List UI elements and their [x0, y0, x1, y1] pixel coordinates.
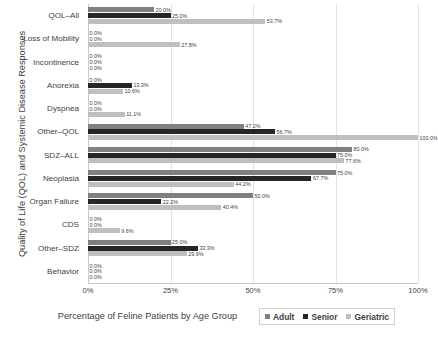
bar-line: 0.0% [88, 60, 418, 65]
bar-value-label: 0.0% [88, 222, 102, 228]
bar [88, 176, 311, 181]
y-axis-category-label: Dyspnea [0, 97, 84, 120]
legend-swatch-icon [303, 314, 308, 319]
legend-item[interactable]: Geriatric [346, 312, 388, 322]
y-axis-category-labels: QOL–AllLoss of MobilityIncontinenceAnore… [0, 4, 84, 283]
bar-line: 40.4% [88, 205, 418, 210]
bar-line: 75.0% [88, 153, 418, 158]
bar-line: 29.9% [88, 251, 418, 256]
bar-value-label: 0.0% [88, 274, 102, 280]
bar-value-label: 100.0% [418, 135, 438, 141]
bar-value-label: 27.8% [180, 42, 197, 48]
bar-value-label: 75.0% [336, 170, 353, 176]
x-axis-tick-label: 100% [408, 286, 427, 295]
bar-group: 0.0%0.0%9.6% [88, 213, 418, 236]
y-axis-category-label: Loss of Mobility [0, 27, 84, 50]
bar-group: 25.0%33.3%29.9% [88, 237, 418, 260]
bar-line: 0.0% [88, 100, 418, 105]
bar [88, 7, 154, 12]
bar-line: 27.8% [88, 42, 418, 47]
bar-line: 9.6% [88, 228, 418, 233]
x-axis-title: Percentage of Feline Patients by Age Gro… [40, 311, 255, 321]
bar-value-label: 0.0% [88, 106, 102, 112]
y-axis-category-label: CDS [0, 213, 84, 236]
bar-group: 20.0%25.0%53.7% [88, 4, 418, 27]
y-axis-category-label: QOL–All [0, 4, 84, 27]
bar-line: 0.0% [88, 65, 418, 70]
bar [88, 228, 120, 233]
bar-value-label: 0.0% [88, 77, 102, 83]
bar-value-label: 20.0% [154, 7, 171, 13]
bar-value-label: 53.7% [265, 18, 282, 24]
bar-line: 75.0% [88, 170, 418, 175]
bar-value-label: 67.7% [311, 175, 328, 181]
bar-group: 75.0%67.7%44.2% [88, 167, 418, 190]
bar-line: 53.7% [88, 19, 418, 24]
y-axis-category-label: SDZ–ALL [0, 144, 84, 167]
bar [88, 124, 244, 129]
legend-item[interactable]: Senior [303, 312, 337, 322]
bar-line: 10.6% [88, 89, 418, 94]
bar [88, 89, 123, 94]
bar [88, 182, 234, 187]
bar [88, 153, 336, 158]
y-axis-category-label: Behavior [0, 260, 84, 283]
y-axis-category-label: Other–SDZ [0, 237, 84, 260]
bar [88, 129, 275, 134]
bar-value-label: 29.9% [187, 251, 204, 257]
bar-value-label: 25.0% [171, 13, 188, 19]
bar-line: 0.0% [88, 269, 418, 274]
y-axis-category-label: Anorexia [0, 74, 84, 97]
legend-swatch-icon [265, 314, 270, 319]
plot-area: 20.0%25.0%53.7%0.0%0.0%27.8%0.0%0.0%0.0%… [88, 4, 418, 283]
legend-label: Adult [273, 312, 294, 322]
bar [88, 135, 418, 140]
bar [88, 199, 161, 204]
x-axis-tick-label: 75% [328, 286, 343, 295]
bar-value-label: 22.2% [161, 199, 178, 205]
x-axis-tick-label: 50% [245, 286, 260, 295]
bar-group: 0.0%0.0%11.1% [88, 97, 418, 120]
bar-line: 0.0% [88, 54, 418, 59]
legend-label: Senior [311, 312, 337, 322]
bar-value-label: 0.0% [88, 36, 102, 42]
bar-group: 47.2%56.7%100.0% [88, 120, 418, 143]
bar [88, 170, 336, 175]
bar-line: 77.6% [88, 158, 418, 163]
bar-group: 80.0%75.0%77.6% [88, 144, 418, 167]
bar-value-label: 10.6% [123, 88, 140, 94]
bar-group: 0.0%13.3%10.6% [88, 74, 418, 97]
bar-line: 11.1% [88, 112, 418, 117]
legend-item[interactable]: Adult [265, 312, 294, 322]
bar-line: 20.0% [88, 7, 418, 12]
y-axis-category-label: Organ Failure [0, 190, 84, 213]
bar-value-label: 77.6% [344, 158, 361, 164]
bar-value-label: 50.0% [253, 193, 270, 199]
legend-swatch-icon [346, 314, 351, 319]
bar-line: 67.7% [88, 176, 418, 181]
bar-value-label: 47.2% [244, 123, 261, 129]
bar-group: 0.0%0.0%27.8% [88, 27, 418, 50]
bar-line: 80.0% [88, 147, 418, 152]
y-axis-category-label: Incontinence [0, 51, 84, 74]
bar [88, 147, 352, 152]
bar [88, 246, 198, 251]
bar-value-label: 25.0% [171, 239, 188, 245]
bar-group: 0.0%0.0%0.0% [88, 51, 418, 74]
bar-line: 100.0% [88, 135, 418, 140]
x-axis-tick-label: 0% [83, 286, 94, 295]
y-axis-category-label: Neoplasia [0, 167, 84, 190]
bar-group: 50.0%22.2%40.4% [88, 190, 418, 213]
y-axis-category-label: Other–QOL [0, 120, 84, 143]
bar-line: 44.2% [88, 182, 418, 187]
bar-line: 47.2% [88, 124, 418, 129]
bar-line: 0.0% [88, 263, 418, 268]
bar-line: 0.0% [88, 36, 418, 41]
bar-value-label: 40.4% [221, 204, 238, 210]
bar-line: 0.0% [88, 275, 418, 280]
bar-value-label: 56.7% [275, 129, 292, 135]
bar-line: 25.0% [88, 13, 418, 18]
x-axis-tick-labels: 0%25%50%75%100% [88, 286, 418, 298]
bar-line: 25.0% [88, 240, 418, 245]
bar [88, 240, 171, 245]
